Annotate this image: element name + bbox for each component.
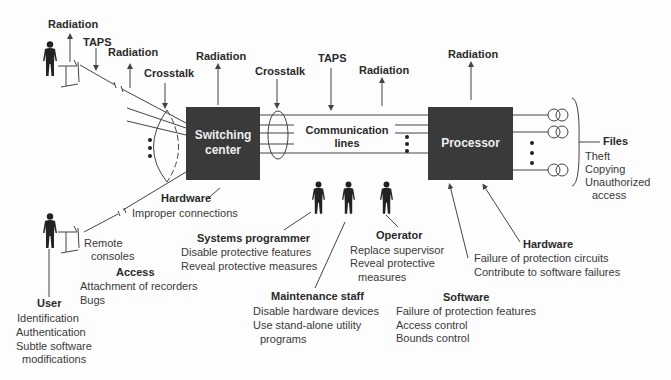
maintenance-staff-item: Use stand-alone utility	[253, 319, 361, 332]
maintenance-staff-item: programs	[260, 333, 306, 346]
radiation-label-1: Radiation	[48, 18, 98, 31]
user-title: User	[37, 297, 61, 310]
systems-programmer-figure-icon	[312, 182, 325, 214]
remote-consoles-line2: consoles	[91, 250, 134, 263]
operator-item: Replace supervisor	[350, 244, 444, 257]
maintenance-staff-figure-icon	[342, 182, 355, 214]
switch-hardware-item: Improper connections	[132, 207, 238, 220]
systems-programmer-item: Disable protective features	[181, 246, 311, 259]
radiation-label-4: Radiation	[359, 64, 409, 77]
operator-item: measures	[358, 271, 406, 284]
switch-hardware-title: Hardware	[161, 192, 211, 205]
software-item: Failure of protection features	[396, 305, 536, 318]
switching-center-label: Switching center	[186, 128, 260, 158]
access-item: Bugs	[80, 294, 105, 307]
user-item: Subtle software	[16, 340, 92, 353]
maintenance-staff-item: Disable hardware devices	[253, 305, 379, 318]
processor-label: Processor	[428, 136, 513, 151]
software-item: Bounds control	[396, 332, 469, 345]
user-item: modifications	[22, 353, 86, 366]
radiation-label-3: Radiation	[196, 50, 246, 63]
processor-hardware-item: Failure of protection circuits	[474, 252, 609, 265]
radiation-label-5: Radiation	[448, 48, 498, 61]
access-item: Attachment of recorders	[80, 280, 197, 293]
operator-item: Reveal protective	[350, 257, 435, 270]
files-item: Copying	[585, 163, 625, 176]
processor-hardware-title: Hardware	[523, 238, 573, 251]
taps-label-2: TAPS	[318, 52, 347, 65]
files-item: Theft	[585, 150, 610, 163]
maintenance-staff-title: Maintenance staff	[271, 290, 364, 303]
files-item: Unauthorized	[585, 176, 650, 189]
crosstalk-label-1: Crosstalk	[144, 67, 194, 80]
radiation-label-2: Radiation	[108, 46, 158, 59]
systems-programmer-item: Reveal protective measures	[181, 260, 317, 273]
communication-lines-label: Communication lines	[300, 124, 394, 150]
operator-figure-icon	[380, 182, 393, 214]
user-item: Identification	[17, 312, 79, 325]
processor-hardware-item: Contribute to software failures	[474, 266, 620, 279]
remote-consoles-line1: Remote	[84, 237, 123, 250]
files-item: access	[592, 189, 626, 202]
user-figure-bottom-icon	[43, 213, 57, 248]
software-title: Software	[443, 291, 489, 304]
user-figure-top-icon	[43, 41, 57, 76]
systems-programmer-title: Systems programmer	[197, 232, 310, 245]
user-item: Authentication	[16, 326, 86, 339]
files-title: Files	[603, 135, 628, 148]
operator-title: Operator	[376, 229, 422, 242]
security-threats-diagram: Radiation TAPS Radiation Crosstalk Radia…	[0, 0, 671, 380]
software-item: Access control	[396, 319, 468, 332]
access-title: Access	[116, 266, 155, 279]
crosstalk-label-2: Crosstalk	[255, 65, 305, 78]
